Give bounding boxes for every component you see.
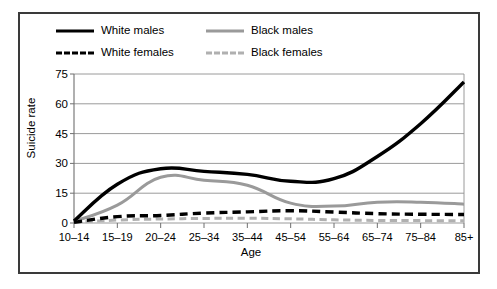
x-tick-label: 10–14 xyxy=(59,231,90,243)
x-tick-label: 35–44 xyxy=(232,231,263,243)
solid-black-line-swatch-icon xyxy=(56,24,94,38)
legend-label-black-females: Black females xyxy=(251,47,323,59)
x-tick-label: 20–24 xyxy=(145,231,176,243)
y-tick-label: 60 xyxy=(40,98,68,110)
legend-item-white-males[interactable]: White males xyxy=(56,22,164,40)
legend-item-black-females[interactable]: Black females xyxy=(206,44,323,62)
series-line xyxy=(74,218,464,222)
x-tick-label: 65–74 xyxy=(362,231,393,243)
x-tick-label: 55–64 xyxy=(319,231,350,243)
y-tick-label: 0 xyxy=(40,217,68,229)
y-tick-label: 15 xyxy=(40,187,68,199)
chart-legend: White males Black males White females Bl… xyxy=(56,22,336,64)
legend-item-black-males[interactable]: Black males xyxy=(206,22,313,40)
dashed-black-line-swatch-icon xyxy=(56,46,94,60)
dashed-gray-line-swatch-icon xyxy=(206,46,244,60)
y-tick-label: 45 xyxy=(40,128,68,140)
x-tick-label: 75–84 xyxy=(405,231,436,243)
y-tick-label: 30 xyxy=(40,157,68,169)
x-tick-label: 15–19 xyxy=(102,231,133,243)
chart-figure-frame: White males Black males White females Bl… xyxy=(18,12,480,274)
legend-label-white-females: White females xyxy=(101,47,174,59)
x-tick-label: 25–34 xyxy=(189,231,220,243)
x-tick-label: 85+ xyxy=(455,231,474,243)
x-axis-label: Age xyxy=(20,246,482,258)
series-line xyxy=(74,82,464,221)
chart-plot-wrapper: White males Black males White females Bl… xyxy=(20,14,482,276)
solid-gray-line-swatch-icon xyxy=(206,24,244,38)
y-tick-label: 75 xyxy=(40,68,68,80)
x-tick-label: 45–54 xyxy=(275,231,306,243)
legend-row-1: White males Black males xyxy=(56,22,336,40)
legend-label-black-males: Black males xyxy=(251,25,313,37)
legend-item-white-females[interactable]: White females xyxy=(56,44,174,62)
legend-row-2: White females Black females xyxy=(56,44,336,62)
y-axis-label: Suicide rate xyxy=(25,73,37,183)
legend-label-white-males: White males xyxy=(101,25,164,37)
